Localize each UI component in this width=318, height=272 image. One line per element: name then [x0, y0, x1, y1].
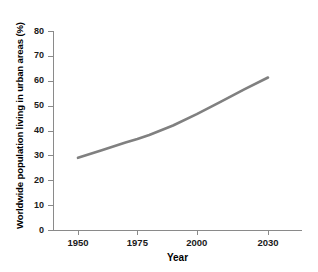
- data-series-line: [0, 0, 318, 272]
- chart-figure: Worldwide population living in urban are…: [0, 0, 318, 272]
- plot-area: Worldwide population living in urban are…: [0, 0, 318, 272]
- x-axis-title: Year: [53, 252, 302, 263]
